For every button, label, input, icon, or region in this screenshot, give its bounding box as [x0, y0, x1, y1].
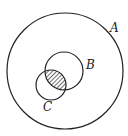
set-b-label: B: [85, 58, 95, 72]
venn-diagram: A B C: [0, 0, 128, 136]
set-c-label: C: [43, 100, 52, 114]
set-a-circle: [7, 13, 123, 129]
set-a-label: A: [109, 21, 119, 35]
